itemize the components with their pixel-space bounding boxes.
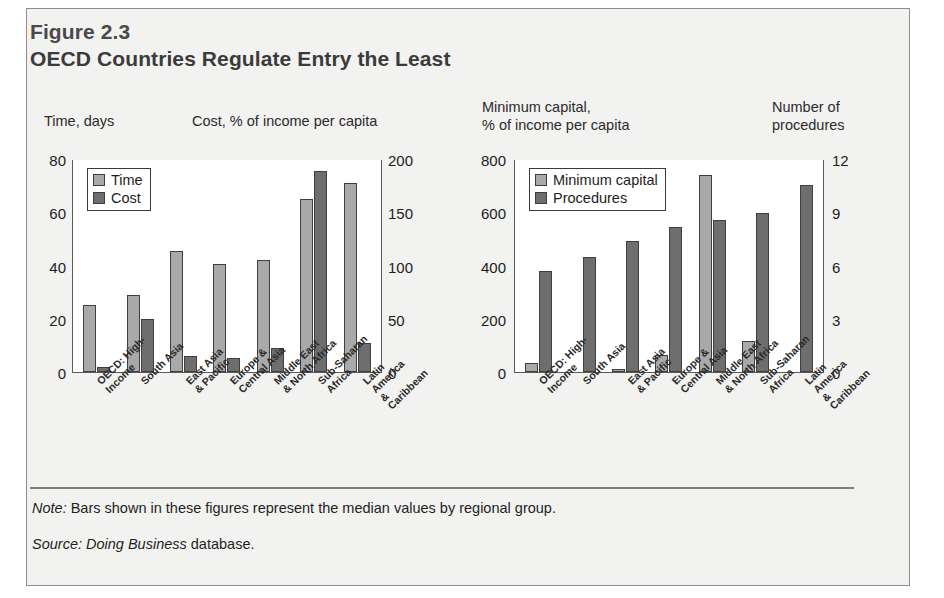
bar-group (205, 160, 248, 372)
axis-tick-label: 0 (58, 365, 66, 382)
right-chart-y2-axis-ticks: 129630 (832, 160, 876, 373)
legend-label-cost: Cost (111, 190, 141, 206)
source-label: Source: (32, 536, 82, 552)
page-title: OECD Countries Regulate Entry the Least (30, 46, 850, 71)
source-database-name: Doing Business (82, 536, 187, 552)
legend-item-minimum-capital: Minimum capital (535, 172, 658, 188)
right-chart-y-axis-ticks: 8006004002000 (452, 160, 506, 373)
axis-tick-label: 80 (49, 152, 66, 169)
footer-divider (30, 487, 854, 489)
axis-tick-label: 12 (832, 152, 849, 169)
figure-number: Figure 2.3 (30, 20, 850, 45)
left-chart-category-labels: OECD: High- IncomeSouth AsiaEast Asia & … (72, 379, 382, 489)
axis-tick-label: 0 (498, 365, 506, 382)
axis-tick-label: 6 (832, 258, 840, 275)
axis-tick-label: 3 (832, 311, 840, 328)
note-text: Bars shown in these figures represent th… (67, 500, 556, 516)
legend-swatch-cost-icon (93, 192, 105, 204)
axis-tick-label: 200 (481, 311, 506, 328)
legend-label-procedures: Procedures (553, 190, 627, 206)
axis-tick-label: 9 (832, 205, 840, 222)
bar-procedures (539, 271, 552, 372)
legend-swatch-minimum-capital-icon (535, 174, 547, 186)
axis-tick-label: 800 (481, 152, 506, 169)
bar-minimum-capital (612, 369, 625, 372)
right-chart-plot-area: Minimum capital Procedures (514, 160, 824, 373)
left-chart-y2-axis-ticks: 200150100500 (388, 160, 444, 373)
figure-source: Source: Doing Business database. (32, 536, 255, 552)
right-chart-category-labels: OECD: High- IncomeSouth AsiaEast Asia & … (514, 379, 824, 489)
legend-item-procedures: Procedures (535, 190, 658, 206)
legend-item-cost: Cost (93, 190, 143, 206)
axis-tick-label: 20 (49, 311, 66, 328)
left-chart-plot-area: Time Cost (72, 160, 382, 373)
axis-tick-label: 200 (388, 152, 413, 169)
right-plot-wrap: 8006004002000 129630 Minimum capital Pro… (452, 95, 882, 495)
left-plot-wrap: 806040200 200150100500 Time Cost (14, 95, 454, 495)
axis-tick-label: 400 (481, 258, 506, 275)
source-text: database. (187, 536, 255, 552)
axis-tick-label: 150 (388, 205, 413, 222)
left-chart-panel: Time, days Cost, % of income per capita … (14, 95, 454, 495)
axis-tick-label: 50 (388, 311, 405, 328)
legend-label-time: Time (111, 172, 143, 188)
legend-label-minimum-capital: Minimum capital (553, 172, 658, 188)
right-chart-legend: Minimum capital Procedures (529, 168, 666, 211)
figure-page: Figure 2.3 OECD Countries Regulate Entry… (0, 0, 944, 598)
charts-container: Time, days Cost, % of income per capita … (0, 95, 884, 495)
bar-time (83, 305, 96, 372)
bar-procedures (626, 241, 639, 372)
note-label: Note: (32, 500, 67, 516)
legend-item-time: Time (93, 172, 143, 188)
legend-swatch-time-icon (93, 174, 105, 186)
axis-tick-label: 600 (481, 205, 506, 222)
left-chart-legend: Time Cost (87, 168, 151, 211)
legend-swatch-procedures-icon (535, 192, 547, 204)
bar-procedures (669, 227, 682, 372)
right-chart-panel: Minimum capital, % of income per capita … (452, 95, 882, 495)
axis-tick-label: 100 (388, 258, 413, 275)
left-chart-y-axis-ticks: 806040200 (22, 160, 66, 373)
bar-group (162, 160, 205, 372)
title-block: Figure 2.3 OECD Countries Regulate Entry… (30, 20, 850, 71)
axis-tick-label: 40 (49, 258, 66, 275)
bar-minimum-capital (525, 363, 538, 372)
axis-tick-label: 60 (49, 205, 66, 222)
figure-note: Note: Bars shown in these figures repres… (32, 500, 556, 516)
